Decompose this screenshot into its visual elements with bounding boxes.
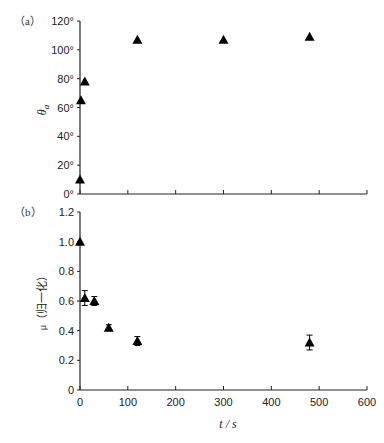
- x-tick-label: 0: [77, 396, 83, 408]
- panel-a-label: （a）: [14, 15, 41, 27]
- triangle-marker: [89, 296, 99, 305]
- panel-a: （a） 0°20°40°60°80°100°120° θa: [14, 15, 367, 200]
- triangle-marker: [305, 32, 315, 41]
- panel-b: （b） 00.20.40.60.81.01.201002003004005006…: [14, 206, 376, 431]
- panel-a-data-points: [75, 32, 315, 184]
- panel-b-axes: 00.20.40.60.81.01.20100200300400500600: [59, 206, 376, 408]
- y-tick-label: 20°: [57, 159, 74, 171]
- panel-a-y-axis-label: θa: [35, 104, 51, 115]
- x-tick-label: 200: [166, 396, 184, 408]
- triangle-marker: [80, 77, 90, 86]
- panel-a-axes: 0°20°40°60°80°100°120°: [51, 15, 367, 200]
- triangle-marker: [132, 336, 142, 345]
- y-tick-label: 40°: [57, 130, 74, 142]
- triangle-marker: [76, 95, 86, 104]
- y-tick-label: 0: [68, 384, 74, 396]
- panel-b-data-points: [75, 237, 315, 350]
- y-tick-label: 0.6: [59, 295, 74, 307]
- panel-b-label: （b）: [14, 206, 42, 218]
- triangle-marker: [75, 175, 85, 184]
- triangle-marker: [132, 35, 142, 44]
- y-tick-label: 80°: [57, 73, 74, 85]
- y-tick-label: 60°: [57, 102, 74, 114]
- y-tick-label: 120°: [51, 15, 74, 27]
- y-tick-label: 0.4: [59, 325, 74, 337]
- triangle-marker: [219, 35, 229, 44]
- y-tick-label: 0°: [63, 188, 74, 200]
- y-tick-label: 1.0: [59, 236, 74, 248]
- y-tick-label: 0.2: [59, 354, 74, 366]
- x-tick-label: 600: [358, 396, 376, 408]
- triangle-marker: [75, 237, 85, 246]
- x-axis-label: t / s: [219, 417, 237, 431]
- panel-b-y-axis-label: μ（归一化）: [35, 270, 48, 331]
- figure-caption-cropped: [100, 431, 360, 437]
- x-tick-label: 500: [310, 396, 328, 408]
- x-tick-label: 400: [262, 396, 280, 408]
- x-tick-label: 100: [119, 396, 137, 408]
- y-tick-label: 0.8: [59, 265, 74, 277]
- triangle-marker: [80, 293, 90, 302]
- triangle-marker: [104, 323, 114, 332]
- y-tick-label: 1.2: [59, 206, 74, 218]
- chart-figure: （a） 0°20°40°60°80°100°120° θa （b） 00.20.…: [0, 0, 384, 443]
- triangle-marker: [305, 338, 315, 347]
- y-tick-label: 100°: [51, 44, 74, 56]
- x-tick-label: 300: [214, 396, 232, 408]
